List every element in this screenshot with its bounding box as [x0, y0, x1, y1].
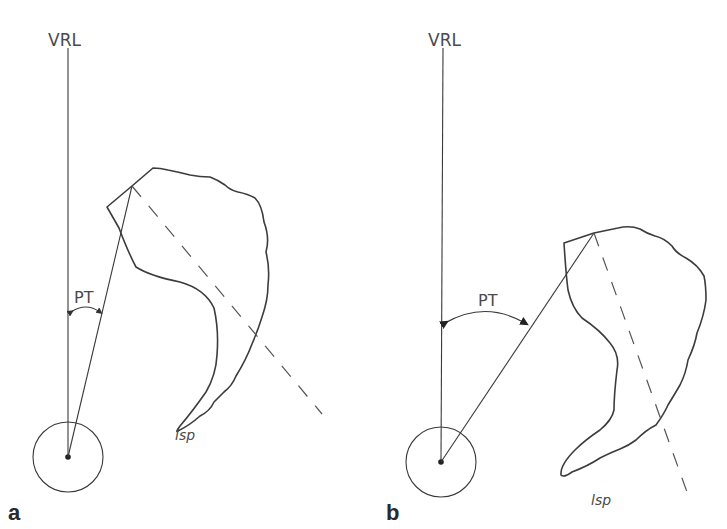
panel-a: VRL PT lsp a [8, 30, 322, 525]
pt-label-b: PT [478, 291, 498, 310]
panel-label-b: b [386, 500, 399, 525]
pelvic-tilt-line-a [68, 186, 132, 457]
pelvic-tilt-diagram: VRL PT lsp a VRL PT lsp b [0, 0, 727, 529]
sacrum-outline-b [561, 227, 706, 476]
pt-angle-arc-b [445, 312, 525, 324]
pt-angle-arc-a [71, 307, 100, 312]
vrl-label-a: VRL [48, 30, 81, 50]
sacral-axis-dashed-b [594, 233, 687, 492]
vrl-label-b: VRL [428, 30, 461, 50]
lsp-label-b: lsp [591, 492, 611, 508]
panel-label-a: a [8, 500, 21, 525]
sacrum-outline-a [107, 168, 269, 431]
pt-label-a: PT [74, 288, 94, 307]
vertical-reference-line-b [441, 48, 443, 462]
sacral-axis-dashed-a [132, 186, 322, 414]
pelvic-tilt-line-b [441, 233, 594, 462]
lsp-label-a: lsp [175, 427, 195, 443]
panel-b: VRL PT lsp b [386, 30, 706, 525]
